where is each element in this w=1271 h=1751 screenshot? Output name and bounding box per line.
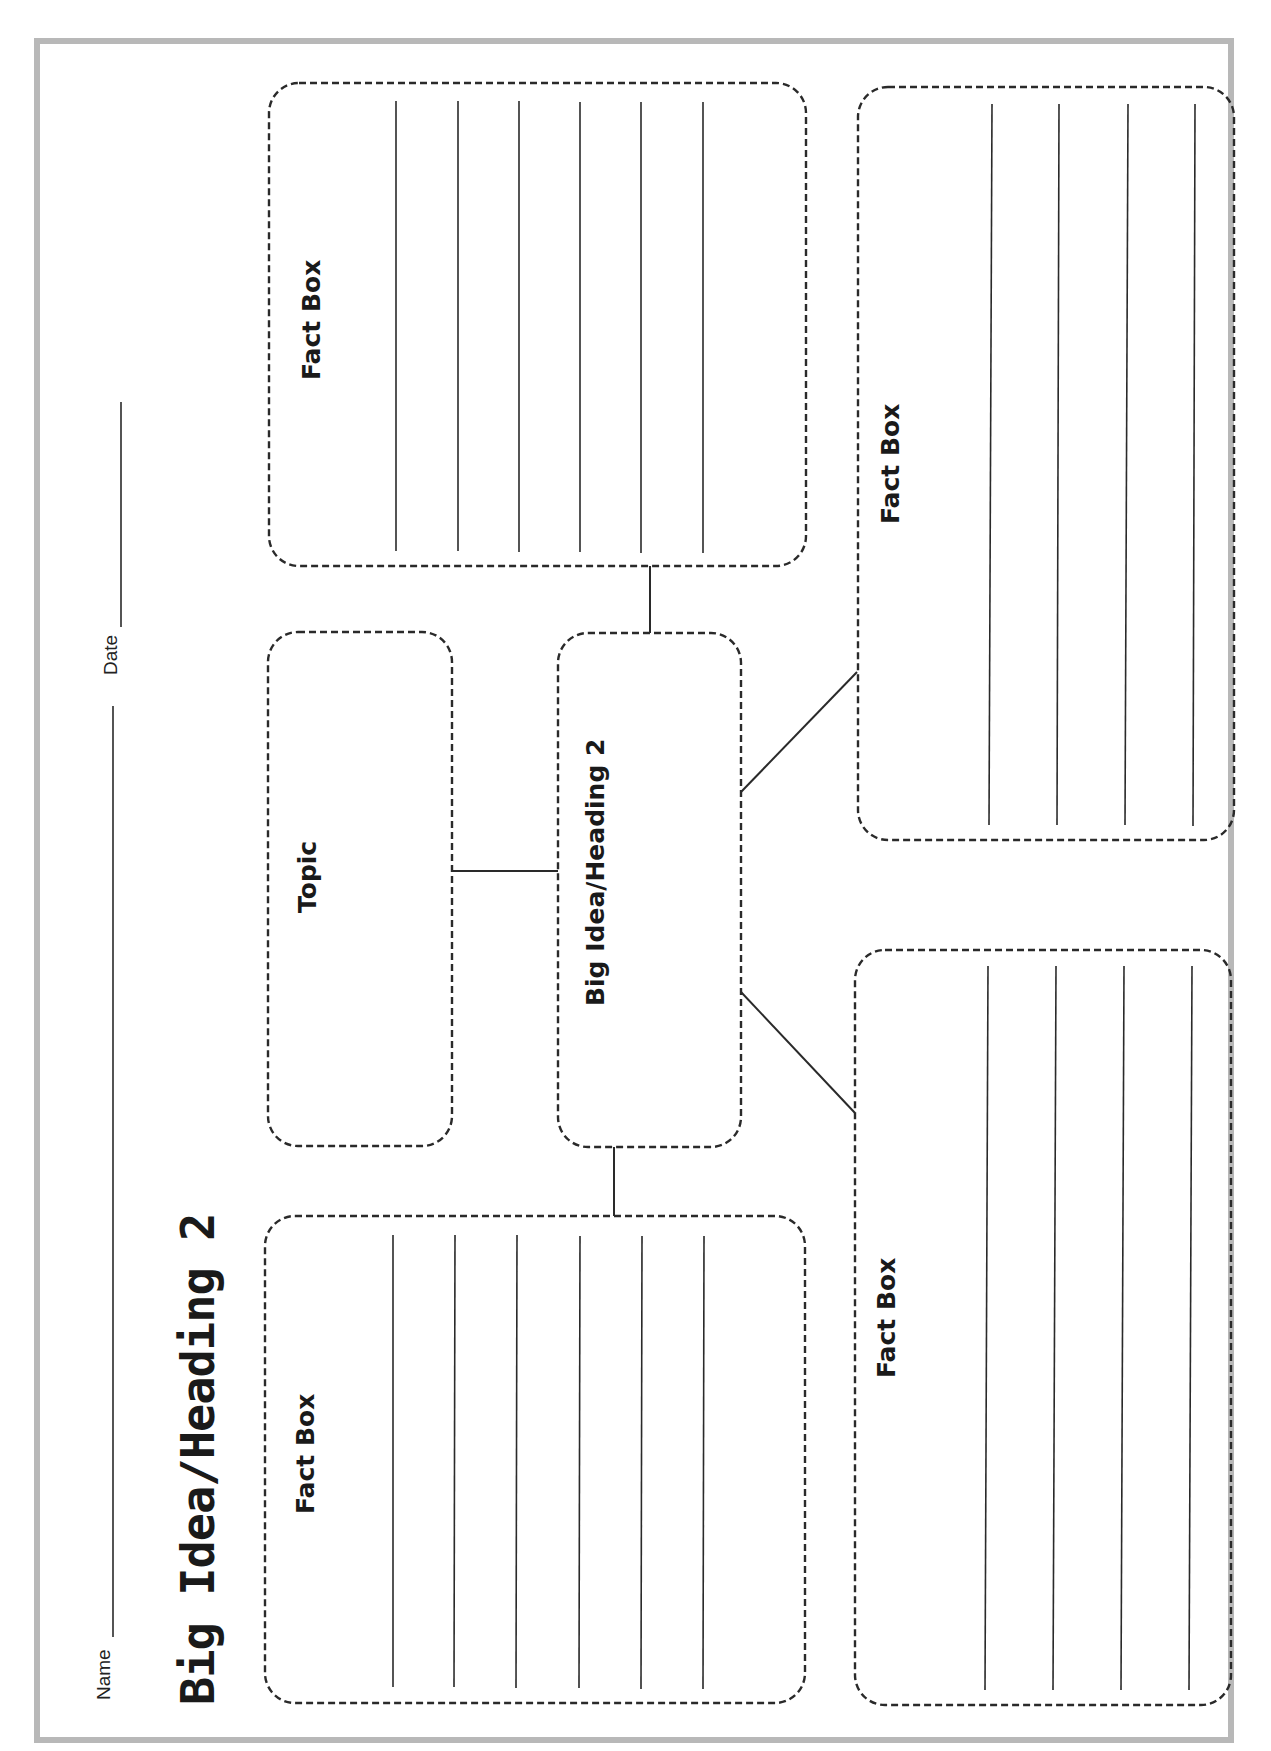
- writing-line: [579, 1236, 580, 1688]
- topic-label: Topic: [293, 841, 322, 913]
- writing-line: [989, 104, 992, 825]
- writing-line: [454, 1235, 455, 1687]
- fact-box-lower-right-label: Fact Box: [872, 1258, 901, 1378]
- date-label: Date: [100, 635, 122, 675]
- fact-box-upper-right-label: Fact Box: [876, 404, 905, 524]
- fact-box-upper-right: [858, 87, 1234, 840]
- writing-line: [516, 1235, 517, 1688]
- writing-line: [1121, 966, 1124, 1690]
- writing-line: [985, 966, 988, 1690]
- fact-box-lower-right: [855, 950, 1231, 1705]
- fact-box-upper-left: [269, 83, 806, 566]
- page-title: Big Idea/Heading 2: [170, 1214, 225, 1705]
- writing-line: [1053, 966, 1056, 1690]
- writing-line: [1125, 104, 1128, 825]
- writing-line: [703, 1236, 704, 1689]
- fact-box-lower-left-label: Fact Box: [291, 1394, 320, 1514]
- connector-big-idea-to-lower-right: [741, 992, 855, 1113]
- connector-big-idea-to-upper-right: [741, 672, 857, 792]
- writing-line: [641, 1236, 642, 1689]
- writing-line: [1057, 104, 1059, 825]
- writing-line: [1189, 966, 1192, 1690]
- name-label: Name: [93, 1649, 115, 1700]
- big-idea-label: Big Idea/Heading 2: [581, 739, 610, 1006]
- fact-box-lower-left: [265, 1216, 805, 1703]
- fact-box-upper-left-label: Fact Box: [297, 260, 326, 380]
- writing-line: [1193, 104, 1195, 826]
